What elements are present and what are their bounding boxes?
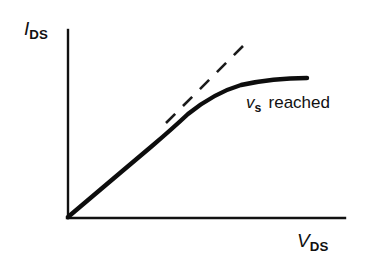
x-axis-label-subscript: DS [310,239,329,254]
x-axis-label: VDS [297,231,329,250]
saturation-velocity-annotation: vsreached [246,94,330,111]
figure-canvas: IDS VDS vsreached [0,0,384,260]
annotation-symbol: v [246,93,255,112]
x-axis-label-symbol: V [297,230,310,251]
y-axis-label-subscript: DS [29,27,48,42]
y-axis-label: IDS [24,19,48,38]
annotation-word: reached [269,93,330,112]
annotation-subscript: s [255,101,262,115]
ohmic-tangent-dashed-line [166,46,243,123]
figure-plot-svg [0,0,384,260]
